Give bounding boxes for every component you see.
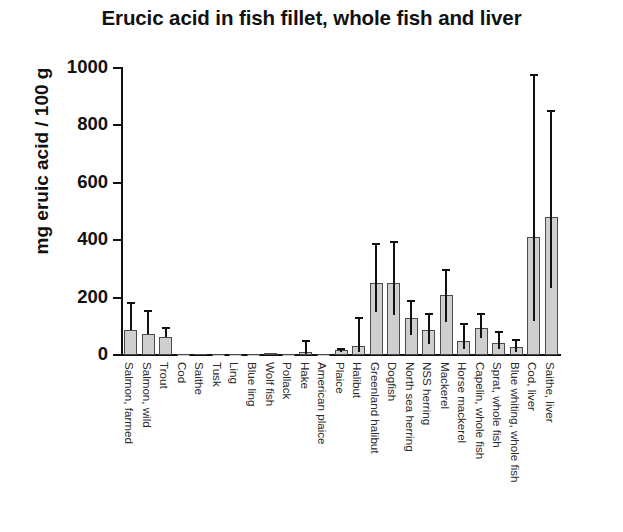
y-axis-tick-label: 0 [0,343,108,365]
plot-area [122,68,560,355]
x-axis-tick-label: Mackerel [439,362,451,409]
x-axis-tick-label: Blue whiting, whole fish [509,362,521,483]
x-axis-tick-label: Sprat, whole fish [492,362,504,448]
error-bar-stem [147,310,149,334]
error-bar-cap [512,339,520,341]
error-bar-cap [477,313,485,315]
x-axis-tick-label: Hake [299,362,311,389]
error-bar-cap [302,340,310,342]
x-axis-tick-label: Trout [159,362,171,389]
error-bar-cap [442,269,450,271]
y-axis-tick [113,182,121,184]
error-bar-cap [407,300,415,302]
error-bar-stem [375,243,377,312]
error-bar-stem [550,110,552,287]
x-axis-tick-label: North sea herring [404,362,416,452]
error-bar-cap [390,241,398,243]
x-axis-tick-label: Salmon, farmed [124,362,136,444]
bar [124,330,137,355]
y-axis-tick-label: 200 [0,286,108,308]
error-bar-cap [355,317,363,319]
x-axis-tick-label: Salmon, wild [141,362,153,428]
x-axis-tick-label: Greenland halibut [369,362,381,454]
y-axis-tick [113,354,121,356]
x-axis-tick-label: Halibut [352,362,364,398]
error-bar-cap [495,331,503,333]
bar [247,354,260,356]
bar [229,354,242,356]
error-bar-stem [480,313,482,339]
y-axis-tick-label: 600 [0,171,108,193]
error-bar-stem [463,323,465,349]
chart-figure: Erucic acid in fish fillet, whole fish a… [0,0,623,532]
error-bar-stem [445,269,447,322]
x-axis-tick-label: Dogfish [387,362,399,401]
x-axis-tick-label: Saithe [194,362,206,395]
error-bar-stem [305,340,307,354]
x-axis-tick-label: Ling [229,362,241,384]
x-axis-tick-label: American plaice [316,362,328,444]
error-bar-stem [130,302,132,330]
x-axis-tick-label: Wolf fish [264,362,276,406]
bar [194,354,207,356]
x-axis-tick-label: Tusk [211,362,223,387]
bar [282,354,295,356]
bar [142,334,155,355]
x-axis-tick-label: Cod, liver [527,362,539,411]
error-bar-stem [358,317,360,351]
x-axis-tick-label: Saithe, liver [544,362,556,423]
x-axis-tick-label: Pollack [281,362,293,399]
bar [212,354,225,356]
error-bar-cap [425,313,433,315]
error-bar-stem [410,300,412,334]
x-axis-tick-label: Capelin, whole fish [474,362,486,459]
error-bar-cap [144,310,152,312]
bar [159,337,172,355]
y-axis-tick [113,124,121,126]
y-axis-tick [113,239,121,241]
x-axis-tick-label: Horse mackerel [457,362,469,443]
y-axis-tick [113,67,121,69]
y-axis-tick-label: 800 [0,113,108,135]
error-bar-stem [533,74,535,321]
x-axis-tick-label: NSS herring [422,362,434,425]
error-bar-cap [372,243,380,245]
error-bar-cap [337,348,345,350]
error-bar-cap [127,302,135,304]
error-bar-cap [530,74,538,76]
error-bar-cap [547,110,555,112]
bar [317,354,330,356]
y-axis-tick-label: 1000 [0,56,108,78]
x-axis-tick-label: Cod [176,362,188,383]
bar [177,354,190,356]
bar [264,353,277,355]
x-axis-tick-label: Blue ling [246,362,258,406]
chart-title: Erucic acid in fish fillet, whole fish a… [0,6,623,30]
error-bar-stem [498,331,500,349]
error-bar-cap [162,327,170,329]
y-axis-tick [113,297,121,299]
error-bar-stem [428,313,430,344]
error-bar-cap [460,323,468,325]
error-bar-stem [393,241,395,315]
y-axis-tick-label: 400 [0,228,108,250]
x-axis-tick-label: Plaice [334,362,346,394]
